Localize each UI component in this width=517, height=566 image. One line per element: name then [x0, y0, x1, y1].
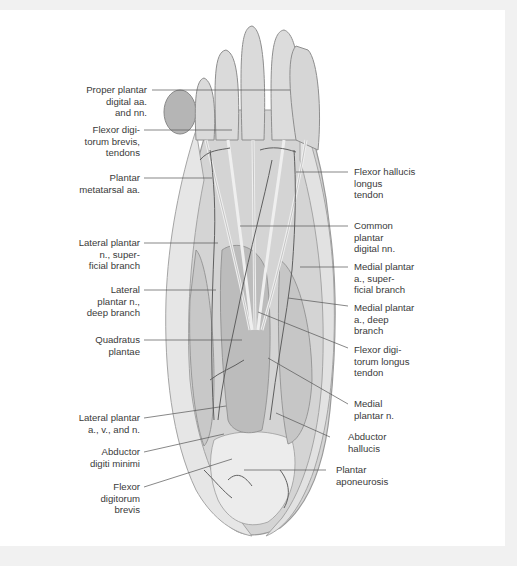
label-flexor-digitorum-longus: Flexor digi- torum longus tendon: [354, 344, 409, 379]
label-medial-plantar-n: Medial plantar n.: [354, 398, 394, 421]
label-flexor-digitorum-brevis-tendons: Flexor digi- torum brevis, tendons: [85, 124, 140, 159]
toe-4: [215, 50, 239, 140]
label-lateral-plantar-deep: Lateral plantar n., deep branch: [87, 284, 140, 319]
label-proper-plantar-digital: Proper plantar digital aa. and nn.: [86, 84, 147, 119]
label-common-plantar-digital: Common plantar digital nn.: [354, 220, 395, 255]
label-abductor-hallucis: Abductor hallucis: [348, 431, 386, 454]
foot-illustration: [0, 0, 517, 566]
label-lateral-plantar-superficial: Lateral plantar n., super- ficial branch: [79, 237, 140, 272]
label-flexor-hallucis-longus: Flexor hallucis longus tendon: [354, 166, 415, 201]
label-quadratus-plantae: Quadratus plantae: [95, 334, 140, 357]
toe-5: [195, 78, 214, 140]
label-abductor-digiti-minimi: Abductor digiti minimi: [90, 446, 140, 469]
little-toe-pad: [164, 90, 196, 134]
label-plantar-aponeurosis: Plantar aponeurosis: [336, 464, 388, 487]
label-flexor-digitorum-brevis: Flexor digitorum brevis: [101, 481, 140, 516]
label-medial-plantar-superficial: Medial plantar a., super- ficial branch: [354, 261, 414, 296]
toe-3: [241, 26, 265, 140]
label-lateral-plantar-avn: Lateral plantar a., v., and n.: [79, 412, 140, 435]
label-plantar-metatarsal: Plantar metatarsal aa.: [79, 172, 140, 195]
label-medial-plantar-deep: Medial plantar a., deep branch: [354, 302, 414, 337]
